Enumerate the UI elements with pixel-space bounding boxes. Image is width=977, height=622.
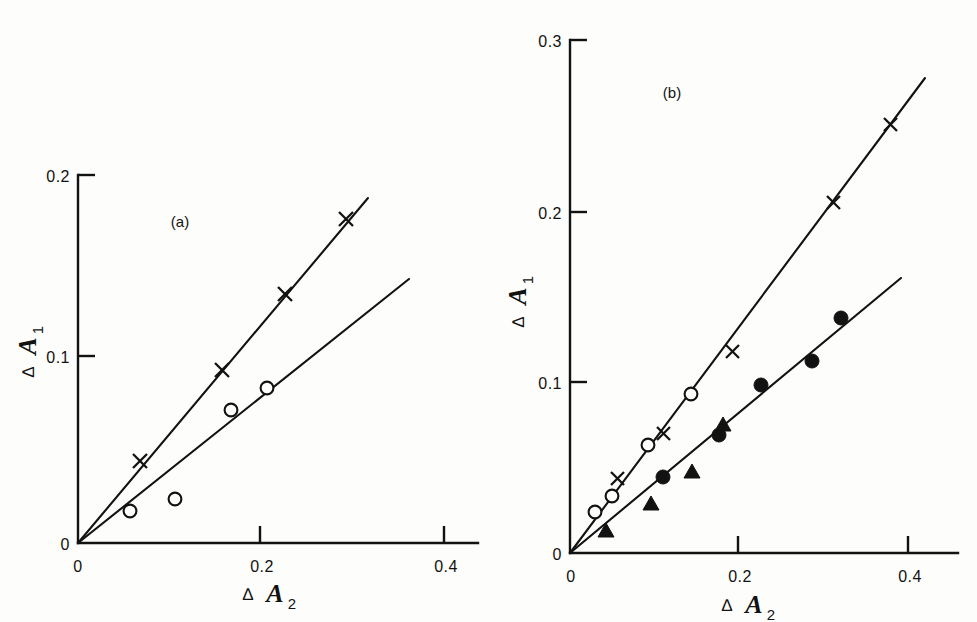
panel-a-yticklabel-0.1: 0.1 [46,349,70,366]
panel-a-open-circle-markers [124,382,274,518]
figure-root: 0.2 0.1 0 0 0.2 0.4 ∆ A 2 ∆ A 1 (a) [0,0,977,622]
panel-a-y-axis-title: ∆ A 1 [13,326,46,377]
panel-b-y-axis-delta: ∆ [509,316,528,327]
panel-a-fitline-open-circle [78,279,409,543]
panel-a-x-axis-subscript: 2 [288,595,296,612]
panel-a-yticklabel-0.2: 0.2 [46,168,70,185]
panel-a-x-axis-title: ∆ A 2 [243,579,296,612]
panel-b-yticklabel-0.2: 0.2 [538,205,562,222]
panel-a-cross-point-2 [215,363,229,377]
panel-a-label: (a) [171,213,189,230]
panel-b-x-axis-letter: A [743,590,762,619]
panel-a-circle-point-4 [261,382,274,395]
panel-a-circle-point-3 [225,404,238,417]
panel-b-triangle-point-3 [684,464,700,478]
panel-b-cross-point-4 [827,196,840,209]
panel-b-y-axis-title: ∆ A 1 [503,276,536,327]
scientific-figure-svg: 0.2 0.1 0 0 0.2 0.4 ∆ A 2 ∆ A 1 (a) [0,0,977,622]
panel-a-cross-markers [133,212,353,468]
panel-b-open-circle-point-2 [606,490,619,503]
panel-b-xticklabel-0.2: 0.2 [728,568,752,585]
panel-b-filled-circle-point-1 [656,470,670,484]
panel-b-cross-point-1 [611,472,624,485]
panel-a-xticklabel-0.2: 0.2 [250,558,274,575]
panel-b-yticklabel-0.1: 0.1 [538,375,562,392]
panel-a-y-axis-letter: A [13,337,42,356]
panel-a-circle-point-2 [169,493,182,506]
panel-a-cross-point-3 [278,287,292,301]
panel-a: 0.2 0.1 0 0 0.2 0.4 ∆ A 2 ∆ A 1 (a) [13,168,478,612]
panel-a-xticklabel-0.4: 0.4 [434,558,458,575]
panel-a-cross-point-1 [133,454,147,468]
panel-b-yticklabel-0.3: 0.3 [538,33,562,50]
panel-a-y-axis-subscript: 1 [29,326,46,334]
panel-b-open-circle-point-3 [642,439,655,452]
panel-b-filled-circle-point-2 [712,428,726,442]
panel-b-cross-point-5 [884,118,897,131]
panel-b-triangle-point-2 [643,496,659,510]
panel-b-filled-circle-point-3 [754,378,768,392]
panel-b-open-circle-markers [589,388,698,519]
panel-b-x-axis-subscript: 2 [767,606,775,622]
panel-a-yticklabel-0: 0 [61,536,70,553]
panel-a-x-axis-delta: ∆ [243,585,254,604]
panel-a-x-axis-letter: A [264,579,283,608]
panel-b-xticklabel-0: 0 [566,568,575,585]
panel-b-label: (b) [663,84,681,101]
panel-a-circle-point-1 [124,505,137,518]
panel-b-fitline-lower [570,278,901,553]
panel-b-x-axis-delta: ∆ [722,596,733,615]
panel-b-triangle-point-1 [598,523,614,537]
panel-a-xticklabel-0: 0 [73,558,82,575]
panel-b-filled-circle-point-4 [805,354,819,368]
panel-b-x-axis-title: ∆ A 2 [722,590,775,622]
panel-a-y-axis-delta: ∆ [19,366,38,377]
panel-b: 0.3 0.2 0.1 0 0 0.2 0.4 ∆ A 2 ∆ A 1 (b) [503,33,958,622]
panel-b-y-axis-letter: A [503,287,532,306]
panel-b-filled-circle-point-5 [834,311,848,325]
panel-b-open-circle-point-1 [589,506,602,519]
panel-b-y-axis-subscript: 1 [519,276,536,284]
panel-b-fitline-upper [570,78,925,553]
panel-b-cross-point-3 [726,345,739,358]
panel-b-xticklabel-0.4: 0.4 [898,568,922,585]
panel-b-open-circle-point-4 [685,388,698,401]
panel-b-yticklabel-0: 0 [553,546,562,563]
